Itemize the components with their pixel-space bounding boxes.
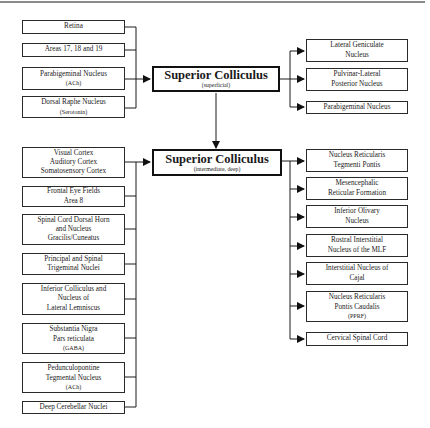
box-label: Nucleus Reticularis	[329, 151, 386, 160]
box-label: Trigeminal Nuclei	[47, 264, 100, 273]
box-label: Pars reticulata	[53, 335, 94, 344]
box-sublabel: (ACh)	[66, 79, 81, 87]
output-parabigeminal-nucleus: Parabigeminal Nucleus	[306, 101, 408, 114]
box-label: Areas 17, 18 and 19	[45, 45, 103, 54]
box-label: Gracilis/Cuneatus	[48, 234, 100, 243]
box-label: Inferior Olivary	[334, 207, 380, 216]
box-label: Nucleus	[345, 217, 369, 226]
hub-qualifier: (intermediate, deep)	[194, 166, 241, 173]
box-label: Pontis Caudalis	[335, 303, 380, 312]
input-retina: Retina	[22, 20, 125, 34]
box-label: Rostral Interstitial	[331, 236, 383, 245]
hub-title: Superior Colliculus	[165, 153, 269, 166]
box-label: Tegmental Nucleus	[46, 374, 102, 383]
input-inferior-colliculus: Inferior Colliculus and Nucleus of Later…	[22, 283, 125, 315]
box-label: Posterior Nucleus	[331, 80, 382, 89]
input-deep-cerebellar-nuclei: Deep Cerebellar Nuclei	[22, 401, 125, 414]
output-cervical-spinal-cord: Cervical Spinal Cord	[306, 332, 408, 346]
box-label: and Nucleus	[56, 225, 92, 234]
box-label: Inferior Colliculus and	[41, 285, 106, 294]
box-label: Nucleus Reticularis	[329, 293, 386, 302]
box-label: Nucleus of the MLF	[328, 246, 387, 255]
box-label: Principal and Spinal	[44, 255, 102, 264]
box-sublabel: (PPRF)	[348, 312, 366, 320]
box-label: Nucleus of	[58, 294, 89, 303]
box-label: Mesencephalic	[335, 179, 378, 188]
box-label: Spinal Cord Dorsal Horn	[37, 216, 109, 225]
hub-title: Superior Colliculus	[164, 69, 268, 82]
box-label: Parabigeminal Nucleus	[324, 103, 391, 112]
box-label: Lateral Geniculate	[330, 41, 383, 50]
input-areas-17-18-19: Areas 17, 18 and 19	[22, 43, 125, 57]
box-label: Parabigeminal Nucleus	[40, 70, 107, 79]
box-label: Area 8	[64, 197, 83, 206]
hub-superior-colliculus-deep: Superior Colliculus (intermediate, deep)	[152, 149, 282, 176]
input-frontal-eye-fields: Frontal Eye Fields Area 8	[22, 186, 125, 207]
box-sublabel: (ACh)	[66, 383, 81, 391]
output-inferior-olivary: Inferior Olivary Nucleus	[306, 205, 408, 228]
box-label: Auditory Cortex	[50, 158, 97, 167]
box-label: Nucleus	[345, 51, 369, 60]
box-label: Somatosensory Cortex	[41, 167, 106, 176]
box-label: Retina	[64, 22, 83, 31]
box-label: Pedunculopontine	[48, 364, 100, 373]
output-pulvinar-lateral-posterior: Pulvinar-Lateral Posterior Nucleus	[306, 68, 408, 91]
box-label: Substantia Nigra	[49, 325, 97, 334]
output-nrpc-pprf: Nucleus Reticularis Pontis Caudalis (PPR…	[306, 291, 408, 322]
output-interstitial-cajal: Interstitial Nucleus of Cajal	[306, 262, 408, 285]
output-mesencephalic-reticular: Mesencephalic Reticular Formation	[306, 177, 408, 200]
box-label: Reticular Formation	[328, 189, 386, 198]
input-spinal-cord-dorsal-horn: Spinal Cord Dorsal Horn and Nucleus Grac…	[22, 214, 125, 245]
output-rostral-interstitial-mlf: Rostral Interstitial Nucleus of the MLF	[306, 234, 408, 257]
input-trigeminal-nuclei: Principal and Spinal Trigeminal Nuclei	[22, 253, 125, 275]
input-parabigeminal-nucleus: Parabigeminal Nucleus (ACh)	[22, 67, 125, 90]
box-label: Interstitial Nucleus of	[326, 264, 389, 273]
input-substantia-nigra: Substantia Nigra Pars reticulata (GABA)	[22, 323, 125, 354]
output-nrtp: Nucleus Reticularis Tegmenti Pontis	[306, 149, 408, 172]
input-dorsal-raphe-nucleus: Dorsal Raphe Nucleus (Serotonin)	[22, 96, 125, 118]
output-lateral-geniculate-nucleus: Lateral Geniculate Nucleus	[306, 39, 408, 62]
input-pedunculopontine: Pedunculopontine Tegmental Nucleus (ACh)	[22, 362, 125, 393]
box-label: Cervical Spinal Cord	[327, 334, 388, 343]
hub-superior-colliculus-superficial: Superior Colliculus (superficial)	[152, 66, 280, 92]
box-label: Dorsal Raphe Nucleus	[41, 98, 106, 107]
box-label: Cajal	[349, 274, 364, 283]
box-label: Tegmenti Pontis	[334, 161, 381, 170]
box-label: Deep Cerebellar Nuclei	[40, 403, 108, 412]
box-label: Lateral Lemniscus	[47, 304, 100, 313]
box-sublabel: (Serotonin)	[60, 108, 87, 116]
input-sensory-cortices: Visual Cortex Auditory Cortex Somatosens…	[22, 147, 125, 178]
box-sublabel: (GABA)	[63, 344, 84, 352]
box-label: Pulvinar-Lateral	[334, 70, 381, 79]
box-label: Visual Cortex	[54, 149, 94, 158]
box-label: Frontal Eye Fields	[47, 187, 100, 196]
hub-qualifier: (superficial)	[202, 82, 230, 89]
